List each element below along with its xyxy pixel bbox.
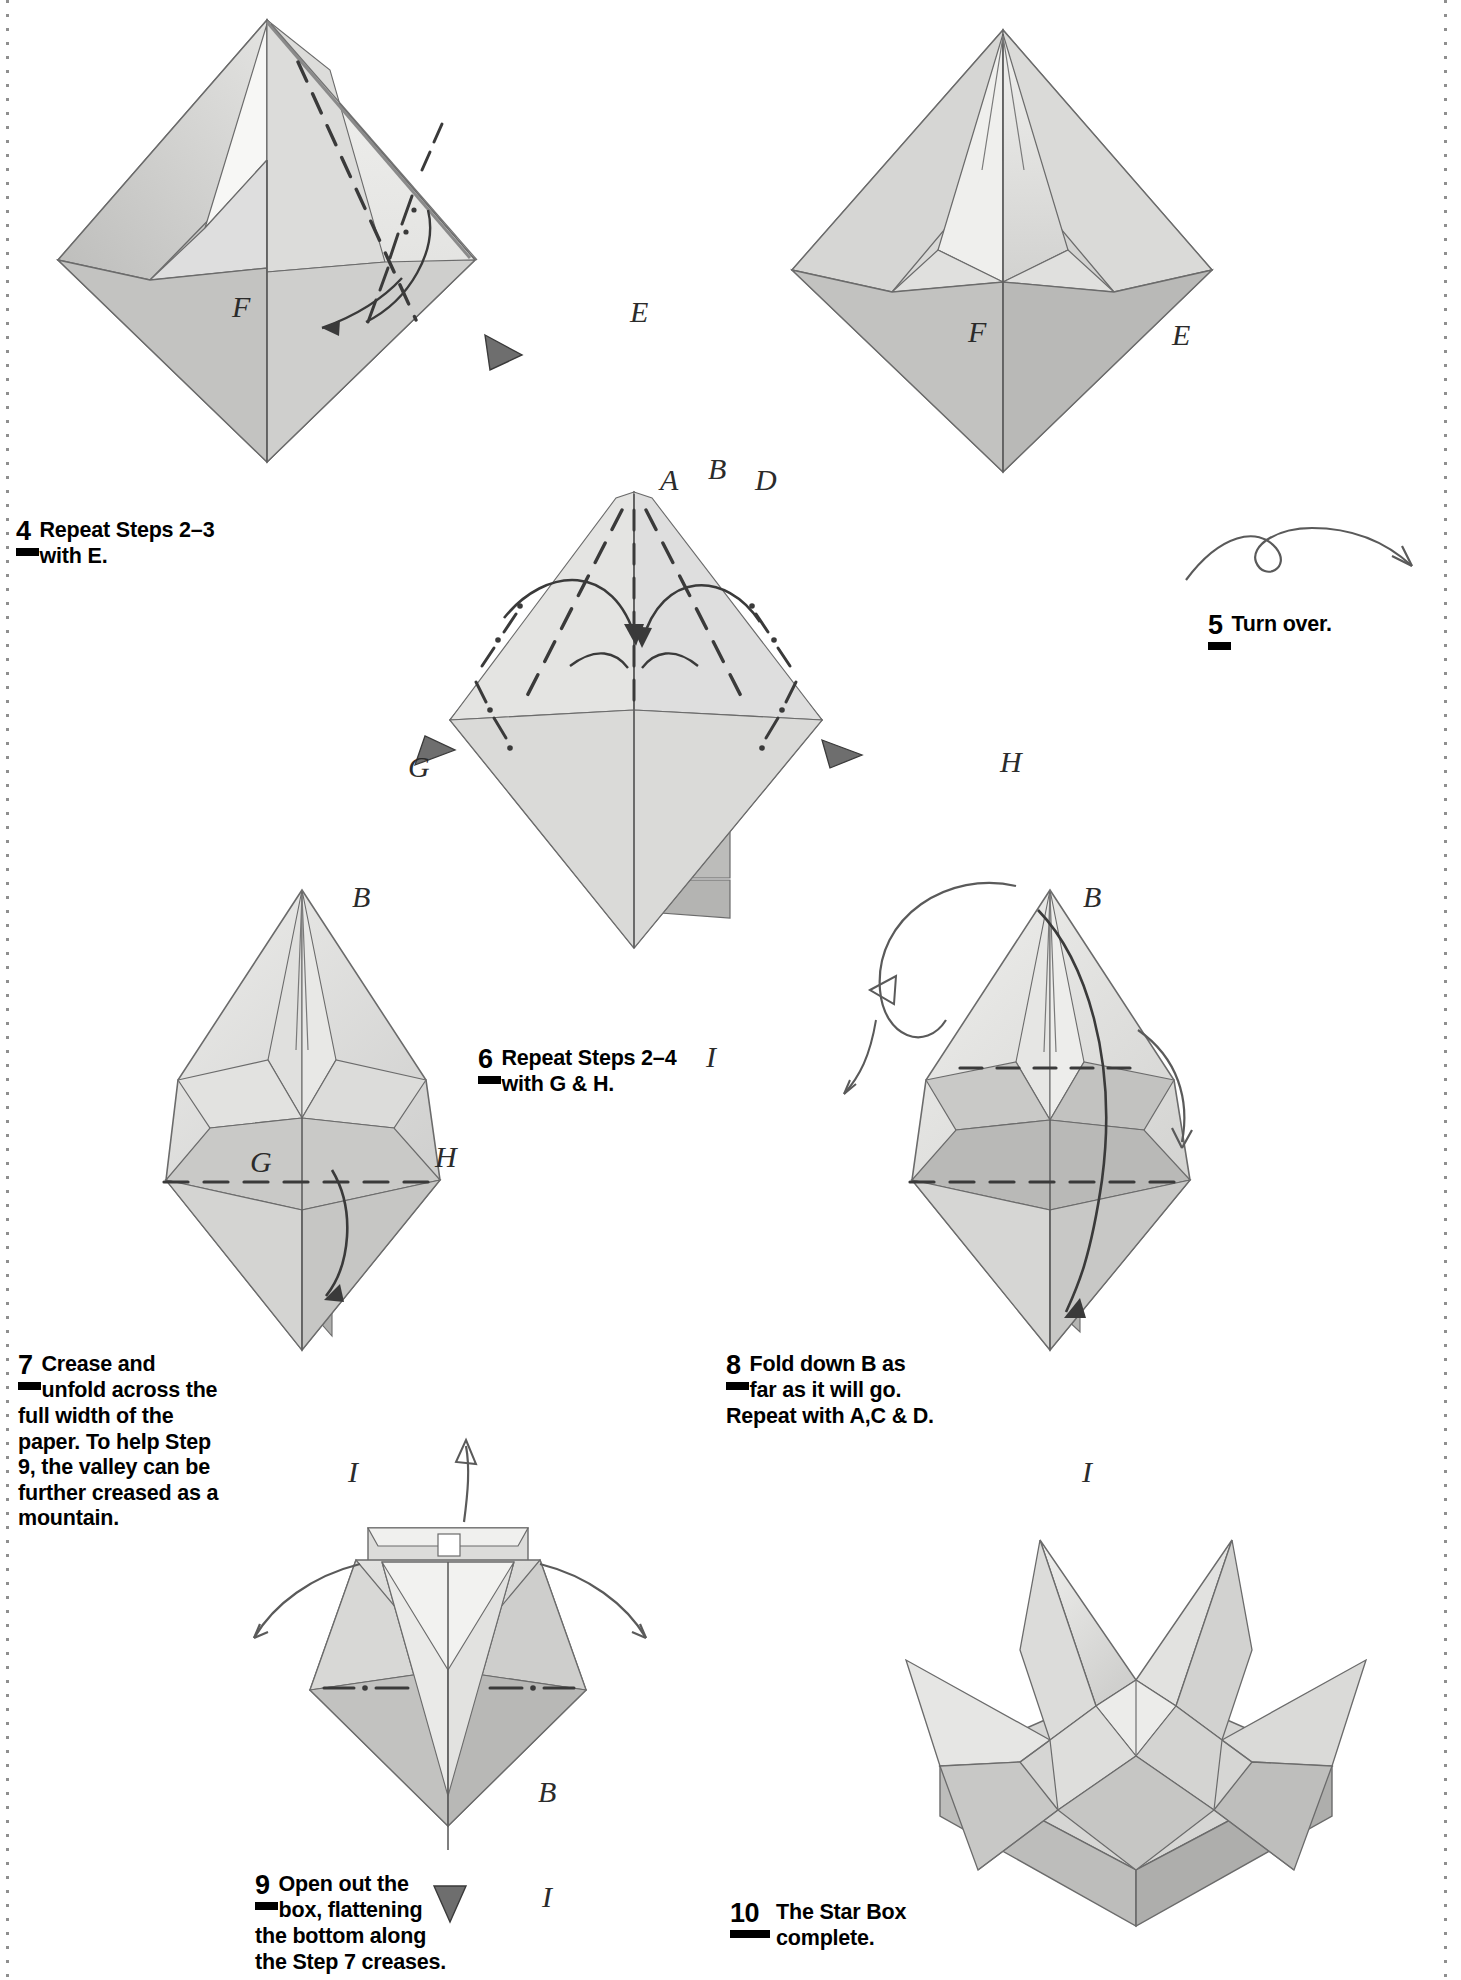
step-5-text: Turn over. xyxy=(1232,612,1332,638)
figure-6-label-B: B xyxy=(708,452,726,486)
step-9-line-1: Open out the xyxy=(279,1872,423,1898)
figure-7-label-I: I xyxy=(348,1455,358,1489)
figure-9-label-I: I xyxy=(542,1880,552,1914)
step-7-line-6: further creased as a xyxy=(18,1481,278,1507)
figure-8-label-I: I xyxy=(1082,1455,1092,1489)
step-10-text: The Star Box complete. xyxy=(776,1900,906,1951)
step-9-number: 9 xyxy=(255,1872,279,1898)
instruction-page: F E xyxy=(0,0,1461,1980)
step-4-line-2: with E. xyxy=(40,544,215,570)
step-9-caption: 9 Open out the box, flattening xyxy=(255,1872,525,1923)
step-7-line-5: 9, the valley can be xyxy=(18,1455,278,1481)
step-10-caption: 10 The Star Box complete. xyxy=(730,1900,1010,1951)
binding-dots-right xyxy=(1444,0,1447,1980)
step-10-number: 10 xyxy=(730,1900,768,1926)
step-7-text: Crease and unfold across the xyxy=(42,1352,218,1403)
step-8-text-continued: Repeat with A,C & D. xyxy=(726,1404,1026,1430)
step-6-line-2: with G & H. xyxy=(502,1072,677,1098)
step-4-number: 4 xyxy=(16,518,40,544)
step-6-caption: 6 Repeat Steps 2–4 with G & H. xyxy=(478,1046,778,1097)
step-8-caption: 8 Fold down B as far as it will go. xyxy=(726,1352,1016,1403)
step-5-number: 5 xyxy=(1208,612,1232,638)
step-10-line-2: complete. xyxy=(776,1926,906,1952)
step-8-line-1: Fold down B as xyxy=(750,1352,906,1378)
step-9-text-continued: the bottom along the Step 7 creases. xyxy=(255,1924,535,1975)
step-5-line-1: Turn over. xyxy=(1232,612,1332,638)
step-6-number: 6 xyxy=(478,1046,502,1072)
step-8-text: Fold down B as far as it will go. xyxy=(750,1352,906,1403)
step-4-caption: 4 Repeat Steps 2–3 with E. xyxy=(16,518,316,569)
step-4-text: Repeat Steps 2–3 with E. xyxy=(40,518,215,569)
step-5-caption: 5 Turn over. xyxy=(1208,612,1438,638)
figure-4-label-F: F xyxy=(232,290,250,324)
step-6-text: Repeat Steps 2–4 with G & H. xyxy=(502,1046,677,1097)
step-7-line-2: unfold across the xyxy=(42,1378,218,1404)
figure-7-label-B: B xyxy=(352,880,370,914)
step-7-number: 7 xyxy=(18,1352,42,1378)
figure-4-label-E: E xyxy=(630,295,648,329)
step-8-number: 8 xyxy=(726,1352,750,1378)
step-9-line-4: the Step 7 creases. xyxy=(255,1950,535,1976)
figure-6-label-H: H xyxy=(1000,745,1022,779)
figure-5-label-E: E xyxy=(1172,318,1190,352)
figure-6-label-G: G xyxy=(408,750,430,784)
step-9-line-2: box, flattening xyxy=(279,1898,423,1924)
figure-7-label-G: G xyxy=(250,1145,272,1179)
step-10-line-1: The Star Box xyxy=(776,1900,906,1926)
figure-step-4 xyxy=(30,10,560,480)
step-7-line-3: full width of the xyxy=(18,1404,278,1430)
turn-over-arrow xyxy=(1180,510,1440,610)
figure-8-label-B: B xyxy=(1083,880,1101,914)
step-7-text-continued: full width of the paper. To help Step 9,… xyxy=(18,1404,278,1532)
step-6-line-1: Repeat Steps 2–4 xyxy=(502,1046,677,1072)
step-4-line-1: Repeat Steps 2–3 xyxy=(40,518,215,544)
step-7-line-1: Crease and xyxy=(42,1352,218,1378)
figure-step-5 xyxy=(770,20,1290,490)
figure-6-label-A: A xyxy=(660,463,678,497)
figure-6-label-D: D xyxy=(755,463,777,497)
binding-dots-left xyxy=(6,0,9,1980)
figure-step-10 xyxy=(900,1530,1370,1960)
step-9-line-3: the bottom along xyxy=(255,1924,535,1950)
figure-5-label-F: F xyxy=(968,315,986,349)
figure-9-label-B: B xyxy=(538,1775,556,1809)
step-9-text: Open out the box, flattening xyxy=(279,1872,423,1923)
step-8-line-2: far as it will go. xyxy=(750,1378,906,1404)
step-7-caption: 7 Crease and unfold across the xyxy=(18,1352,268,1403)
figure-7-label-H: H xyxy=(435,1140,457,1174)
step-8-line-3: Repeat with A,C & D. xyxy=(726,1404,1026,1430)
step-7-line-7: mountain. xyxy=(18,1506,278,1532)
step-7-line-4: paper. To help Step xyxy=(18,1430,278,1456)
